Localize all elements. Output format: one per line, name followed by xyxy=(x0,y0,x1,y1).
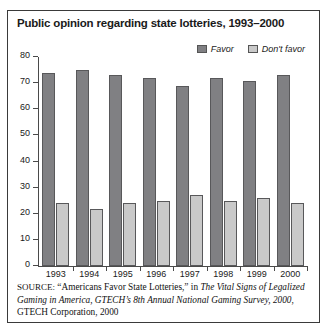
x-axis-tick xyxy=(207,267,208,271)
bar-favor xyxy=(243,81,256,266)
source-note: SOURCE: “Americans Favor State Lotteries… xyxy=(17,281,310,319)
y-axis-tick-label: 80 xyxy=(20,50,30,60)
legend-item-dont-favor: Don't favor xyxy=(248,44,305,54)
y-axis-tick: 80 xyxy=(33,56,38,57)
x-axis-label: 1995 xyxy=(106,269,140,279)
source-prefix: SOURCE: xyxy=(17,282,55,292)
x-axis-label: 1996 xyxy=(140,269,174,279)
bar-favor xyxy=(109,75,122,266)
bar-group xyxy=(173,86,207,266)
x-axis-tick xyxy=(173,267,174,271)
bar-group xyxy=(39,73,73,266)
y-axis-tick-label: 30 xyxy=(20,181,30,191)
x-axis-label: 1993 xyxy=(39,269,73,279)
legend-item-favor: Favor xyxy=(197,44,234,54)
y-axis-tick-label: 50 xyxy=(20,128,30,138)
bar-favor xyxy=(42,73,55,266)
bar-group xyxy=(207,78,241,266)
y-axis-tick: 70 xyxy=(33,82,38,83)
y-axis-tick: 40 xyxy=(33,161,38,162)
x-axis-label: 1998 xyxy=(207,269,241,279)
x-axis-label: 1999 xyxy=(240,269,274,279)
chart-title: Public opinion regarding state lotteries… xyxy=(17,17,284,29)
bar-dont-favor xyxy=(157,201,170,266)
bar-favor xyxy=(76,70,89,266)
bar-dont-favor xyxy=(190,195,203,266)
x-axis-label: 1997 xyxy=(173,269,207,279)
x-axis-tick xyxy=(274,267,275,271)
chart-legend: Favor Don't favor xyxy=(197,44,305,54)
y-axis-tick: 20 xyxy=(33,213,38,214)
bar-dont-favor xyxy=(123,203,136,266)
bar-group xyxy=(240,81,274,266)
legend-label-dont-favor: Don't favor xyxy=(262,44,305,54)
bar-favor xyxy=(143,78,156,266)
y-axis-tick: 50 xyxy=(33,134,38,135)
bar-group xyxy=(106,75,140,266)
y-axis-tick-label: 70 xyxy=(20,76,30,86)
y-axis-tick: 60 xyxy=(33,108,38,109)
x-axis-tick xyxy=(240,267,241,271)
bar-dont-favor xyxy=(90,209,103,266)
bar-favor xyxy=(277,75,290,266)
bar-dont-favor xyxy=(56,203,69,266)
plot-area: 01020304050607080 1993199419951996199719… xyxy=(38,57,308,267)
bar-group xyxy=(274,75,308,266)
legend-swatch-favor xyxy=(197,45,207,53)
x-axis-tick xyxy=(106,267,107,271)
legend-label-favor: Favor xyxy=(211,44,234,54)
y-axis-tick: 30 xyxy=(33,187,38,188)
source-quote: “Americans Favor State Lotteries,” xyxy=(57,282,188,292)
x-axis-tick xyxy=(307,267,308,271)
legend-swatch-dont-favor xyxy=(248,45,258,53)
y-axis-tick-label: 0 xyxy=(25,259,30,269)
bar-dont-favor xyxy=(291,203,304,266)
y-axis-tick: 10 xyxy=(33,239,38,240)
y-axis-tick-label: 20 xyxy=(20,207,30,217)
y-axis-tick-label: 10 xyxy=(20,233,30,243)
x-axis-tick xyxy=(73,267,74,271)
bar-group xyxy=(140,78,174,266)
x-axis-label: 1994 xyxy=(73,269,107,279)
bar-group xyxy=(73,70,107,266)
bar-favor xyxy=(210,78,223,266)
bar-dont-favor xyxy=(224,201,237,266)
chart-figure: Public opinion regarding state lotteries… xyxy=(7,10,320,323)
x-axis-tick xyxy=(140,267,141,271)
x-axis-label: 2000 xyxy=(274,269,308,279)
y-axis-tick-label: 60 xyxy=(20,102,30,112)
source-in: in xyxy=(189,282,201,292)
y-axis-tick-label: 40 xyxy=(20,155,30,165)
y-axis-tick: 0 xyxy=(33,265,38,266)
bar-favor xyxy=(176,86,189,266)
bar-dont-favor xyxy=(257,198,270,266)
